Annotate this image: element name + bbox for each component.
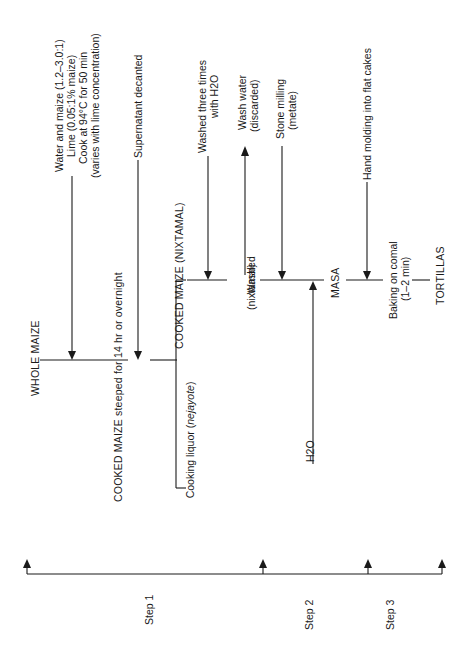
node-cooked-maize-nixtamal: COOKED MAIZE (NIXTAMAL) <box>173 202 185 349</box>
input-stone-milling: Stone milling <box>274 79 286 139</box>
input-hand-molding: Hand molding into flat cakes <box>361 48 373 180</box>
input-lime: Lime (0.05:1% maize) <box>65 55 77 157</box>
water-maize-arrowhead <box>68 351 76 360</box>
input-washed-three: Washed three times <box>196 60 208 153</box>
supernatant-arrowhead <box>134 351 142 360</box>
input-varies: (varies with lime concentration) <box>89 33 101 178</box>
step-3-label: Step 3 <box>384 600 396 630</box>
input-stone-milling-sub: (metate) <box>286 91 298 130</box>
cooking-liquor-nejayote: nejayote <box>184 385 196 425</box>
input-cook: Cook at 94°C for 50 min <box>77 52 89 164</box>
node-masa: MASA <box>329 267 341 298</box>
node-baking-sub: (1–2 min) <box>399 257 411 301</box>
timeline-arrow-3 <box>438 559 446 568</box>
output-wash-water-sub: (discarded) <box>248 79 260 132</box>
step-1-label: Step 1 <box>143 595 155 625</box>
wash-water-arrowhead <box>241 146 249 156</box>
timeline-arrow-1 <box>259 559 267 568</box>
node-tortillas: TORTILLAS <box>434 246 446 305</box>
output-cooking-liquor: Cooking liquor (nejayote) <box>172 382 208 510</box>
cooking-liquor-prefix: Cooking liquor ( <box>184 425 196 499</box>
stone-milling-arrowhead <box>278 271 286 280</box>
timeline-arrow-0 <box>23 559 31 568</box>
input-washed-three-sub: with H2O <box>208 75 220 118</box>
washed-three-arrowhead <box>204 271 212 280</box>
node-washed-sub: (nixtamal) <box>245 264 257 310</box>
node-cooked-maize-steeped: COOKED MAIZE steeped for 14 hr or overni… <box>112 272 124 502</box>
input-supernatant: Supernatant decanted <box>132 55 144 158</box>
h2o-arrowhead <box>309 281 317 290</box>
input-h2o: H2O <box>304 440 316 462</box>
node-whole-maize: WHOLE MAIZE <box>29 320 41 396</box>
cooking-liquor-suffix: ) <box>184 382 196 386</box>
node-baking: Baking on comal <box>387 241 399 319</box>
step-2-label: Step 2 <box>303 600 315 630</box>
output-wash-water: Wash water <box>236 75 248 130</box>
input-water-maize: Water and maize (1.2–3.0:1) <box>53 39 65 172</box>
timeline-arrow-2 <box>364 559 372 568</box>
hand-molding-arrowhead <box>363 271 371 280</box>
